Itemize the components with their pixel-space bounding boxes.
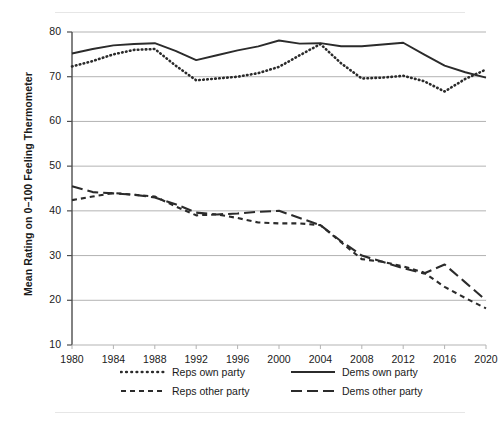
legend-line-sample [290, 386, 336, 396]
legend-label-dems-other-party: Dems other party [342, 385, 423, 397]
legend-swatch-dems-own-party [290, 367, 336, 377]
y-tick-label: 10 [35, 338, 61, 350]
legend-label-dems-own-party: Dems own party [342, 366, 418, 378]
axis-lines [72, 32, 486, 345]
y-tick-label: 80 [35, 25, 61, 37]
legend-row-1: Reps own party Dems own party [120, 362, 440, 381]
legend-label-reps-other-party: Reps other party [172, 385, 250, 397]
y-tick-label: 60 [35, 114, 61, 126]
series-line-dems-own-party [72, 41, 486, 78]
legend-label-reps-own-party: Reps own party [172, 366, 245, 378]
x-tick-label: 2020 [466, 353, 504, 365]
figure-container: Mean Rating on 0–100 Feeling Thermometer… [0, 0, 504, 426]
series-line-reps-own-party [72, 44, 486, 91]
series-line-dems-other-party [72, 186, 486, 300]
y-tick-label: 50 [35, 159, 61, 171]
chart-legend: Reps own party Dems own party Reps other… [120, 362, 440, 400]
legend-swatch-reps-other-party [120, 386, 166, 396]
legend-item-reps-other-party[interactable]: Reps other party [120, 385, 290, 397]
y-tick-label: 70 [35, 70, 61, 82]
y-tick-label: 30 [35, 249, 61, 261]
x-tick-label: 1980 [52, 353, 92, 365]
grid-lines [72, 32, 486, 300]
legend-item-dems-other-party[interactable]: Dems other party [290, 385, 423, 397]
legend-row-2: Reps other party Dems other party [120, 381, 440, 400]
legend-line-sample [120, 386, 166, 396]
y-tick-label: 40 [35, 204, 61, 216]
legend-line-sample [290, 367, 336, 377]
data-series-group [72, 41, 486, 309]
legend-line-sample [120, 367, 166, 377]
y-tick-marks [67, 32, 72, 345]
y-tick-label: 20 [35, 293, 61, 305]
legend-swatch-reps-own-party [120, 367, 166, 377]
legend-item-reps-own-party[interactable]: Reps own party [120, 366, 290, 378]
legend-swatch-dems-other-party [290, 386, 336, 396]
legend-item-dems-own-party[interactable]: Dems own party [290, 366, 418, 378]
